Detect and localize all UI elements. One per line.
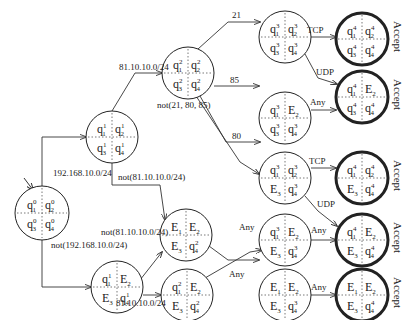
transition-label: UDP: [316, 67, 334, 77]
state-cell: q41: [347, 225, 357, 241]
state-cell: q34: [288, 122, 298, 138]
transition-label: not(21, 80, 85): [157, 100, 211, 110]
state-cell: q33: [270, 122, 280, 138]
accept-label: Accept: [392, 277, 404, 308]
state-cell: q42: [365, 163, 375, 179]
state-cell: q34: [288, 182, 298, 198]
state-cell: q11: [97, 122, 107, 138]
accept-state-node: q41q42E3q44Accept: [336, 152, 404, 204]
transition-label: Any: [311, 282, 327, 292]
state-cell: q31: [270, 225, 280, 241]
accept-label: Accept: [392, 21, 404, 52]
state-cell: q04: [45, 217, 55, 233]
transition-label: 21: [232, 10, 241, 20]
accept-label: Accept: [392, 79, 404, 110]
state-cell: q21: [173, 58, 183, 74]
state-cell: q43: [347, 43, 357, 59]
transition-label: TCP: [307, 25, 324, 35]
start-state-node: q01q02q03q04: [15, 186, 69, 240]
state-cell: q31: [270, 103, 280, 119]
state-cell: q24: [189, 239, 199, 255]
state-cell: q42: [365, 24, 375, 40]
transition-label: not(192.168.10.0/24): [51, 240, 127, 250]
transition-edge: [42, 137, 86, 186]
transition-label: UDP: [317, 199, 335, 209]
transition-label: 192.168.10.0/24: [53, 168, 112, 178]
transition-label: TCP: [309, 156, 326, 166]
state-cell: q44: [365, 182, 375, 198]
state-node: q11q12q13q14: [86, 111, 138, 163]
state-cell: q21: [172, 280, 182, 296]
transition-label: 80: [232, 131, 242, 141]
state-machine-diagram: q01q02q03q04q11q12q13q14q11E2E3q14q21q22…: [0, 0, 407, 320]
state-cell: q44: [365, 299, 375, 315]
state-cell: q34: [288, 244, 298, 260]
state-cell: q41: [347, 82, 357, 98]
state-cell: q44: [365, 43, 375, 59]
accept-state-node: q41E2q43q44Accept: [336, 71, 404, 123]
transition-label: 81.10.10.0/24: [116, 298, 166, 308]
transition-label: not(81.10.10.0/24): [101, 227, 168, 237]
accept-state-node: q41E2E3q44Accept: [336, 214, 404, 266]
transition-label: 81.10.10.0/24: [119, 62, 169, 72]
diagram-canvas: q01q02q03q04q11q12q13q14q11E2E3q14q21q22…: [0, 0, 407, 320]
state-node: q31q32E3q34: [259, 152, 311, 204]
transition-label: Any: [310, 97, 326, 107]
state-cell: q41: [347, 163, 357, 179]
state-cell: q22: [191, 58, 201, 74]
state-cell: q12: [115, 122, 125, 138]
state-cell: q31: [270, 163, 280, 179]
state-node: q21E2E3q24: [161, 269, 213, 320]
state-node: E1E2E3q34: [259, 269, 311, 320]
transition-edge: [198, 22, 260, 49]
transition-label: 85: [230, 75, 240, 85]
state-cell: q34: [288, 41, 298, 57]
state-cell: q24: [191, 77, 201, 93]
accept-state-node: E1E2E3q44Accept: [336, 269, 404, 320]
state-cell: q11: [102, 272, 112, 288]
accept-state-node: q41q42q43q44Accept: [336, 13, 404, 65]
transition-edge: [112, 73, 162, 111]
state-cell: q41: [347, 24, 357, 40]
accept-label: Accept: [392, 222, 404, 253]
state-node: q31E2E3q34: [259, 214, 311, 266]
state-cell: q34: [288, 299, 298, 315]
transition-edge: [140, 252, 162, 280]
state-cell: q44: [365, 101, 375, 117]
transition-label: Any: [239, 222, 255, 232]
state-node: q31q32q33q34: [259, 11, 311, 63]
state-cell: q32: [288, 22, 298, 38]
transition-label: Any: [311, 225, 327, 235]
state-cell: q03: [27, 217, 37, 233]
state-cell: q23: [173, 77, 183, 93]
state-cell: q24: [190, 299, 200, 315]
state-cell: q01: [27, 198, 37, 214]
state-cell: q02: [45, 198, 55, 214]
transition-label: not(81.10.10.0/24): [118, 172, 185, 182]
accept-label: Accept: [392, 160, 404, 191]
state-cell: q44: [365, 244, 375, 260]
state-cell: q13: [97, 141, 107, 157]
state-cell: q14: [115, 141, 125, 157]
state-cell: q43: [347, 101, 357, 117]
transition-edge: [209, 246, 259, 260]
state-cell: q31: [270, 22, 280, 38]
state-node: q31E2q33q34: [259, 92, 311, 144]
transition-label: Any: [229, 269, 245, 279]
state-cell: q33: [270, 41, 280, 57]
state-cell: q32: [288, 163, 298, 179]
state-nodes: q01q02q03q04q11q12q13q14q11E2E3q14q21q22…: [15, 11, 404, 320]
state-node: q21q22q23q24: [162, 47, 214, 99]
